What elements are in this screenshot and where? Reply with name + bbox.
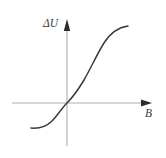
x-axis-label: B <box>145 108 152 120</box>
figure-container: ΔU B <box>0 0 166 158</box>
data-curve <box>31 26 128 128</box>
up-arrow-icon <box>64 19 70 31</box>
right-arrow-icon <box>141 100 152 107</box>
y-axis-label: ΔU <box>43 18 58 30</box>
plot-canvas <box>0 0 166 158</box>
